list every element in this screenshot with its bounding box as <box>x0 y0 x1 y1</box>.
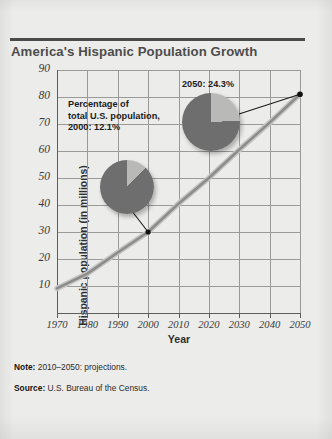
x-tick-label: 1970 <box>40 319 74 330</box>
x-tick-label: 2030 <box>222 319 256 330</box>
x-axis-tick <box>300 313 301 318</box>
pie-chart-2000 <box>100 160 154 214</box>
y-tick-label: 60 <box>24 143 50 155</box>
x-axis-tick <box>87 313 88 318</box>
note-row: Note: 2010–2050: projections. <box>14 362 127 372</box>
source-label: Source: <box>14 383 45 393</box>
y-tick-label: 70 <box>24 116 50 128</box>
x-axis-title: Year <box>57 333 301 345</box>
x-axis-tick <box>148 313 149 318</box>
x-axis-tick <box>239 313 240 318</box>
x-tick-label: 2040 <box>253 319 287 330</box>
pie-chart-2050 <box>182 93 240 151</box>
source-text: U.S. Bureau of the Census. <box>48 383 150 393</box>
y-tick-label: 80 <box>24 89 50 101</box>
x-tick-label: 1990 <box>101 319 135 330</box>
y-tick-label: 30 <box>24 224 50 236</box>
gridline-vertical <box>179 70 180 313</box>
x-tick-label: 2010 <box>162 319 196 330</box>
source-row: Source: U.S. Bureau of the Census. <box>14 383 149 393</box>
gridline-vertical <box>239 70 240 313</box>
note-label: Note: <box>14 362 35 372</box>
x-tick-label: 2050 <box>283 319 317 330</box>
gridline-vertical <box>300 70 301 313</box>
y-tick-label: 90 <box>24 62 50 74</box>
y-tick-label: 10 <box>24 278 50 290</box>
x-axis-tick <box>209 313 210 318</box>
x-axis-tick <box>179 313 180 318</box>
x-axis-tick <box>57 313 58 318</box>
y-tick-label: 50 <box>24 170 50 182</box>
annotation-label-2050: 2050: 24.3% <box>182 79 278 91</box>
x-axis-tick <box>118 313 119 318</box>
x-axis-tick <box>270 313 271 318</box>
y-axis-line <box>57 70 58 314</box>
note-text: 2010–2050: projections. <box>38 362 127 372</box>
y-tick-label: 20 <box>24 251 50 263</box>
x-tick-label: 2000 <box>131 319 165 330</box>
annotation-label-2000: Percentage of total U.S. population, 200… <box>68 99 178 134</box>
x-tick-label: 1980 <box>70 319 104 330</box>
chart-figure: America's Hispanic Population Growth His… <box>0 0 332 439</box>
gridline-vertical <box>270 70 271 313</box>
y-tick-label: 40 <box>24 197 50 209</box>
chart-title: America's Hispanic Population Growth <box>11 44 311 59</box>
x-tick-label: 2020 <box>192 319 226 330</box>
title-rule <box>10 38 305 41</box>
